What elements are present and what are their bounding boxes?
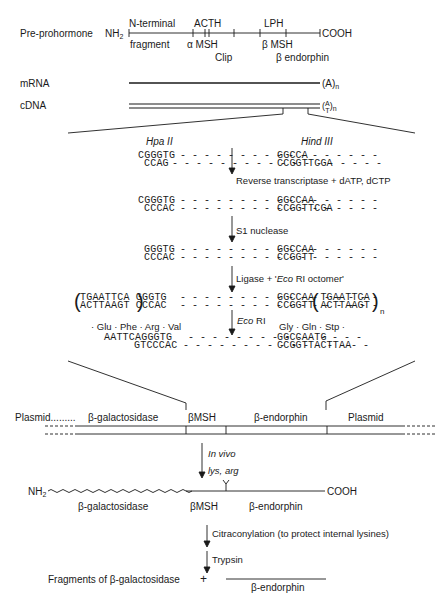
seq-4-bottom-right: CCGGTTACTTAA xyxy=(277,342,351,350)
nterm-text: NH xyxy=(105,28,119,39)
step-0-arrow-label: Reverse transcriptase + dATP, dCTP xyxy=(236,176,391,186)
fusion-label-endorphin: β-endorphin xyxy=(249,502,303,512)
label-clip: Clip xyxy=(215,53,232,63)
octomer-text: RI octomer' xyxy=(293,273,344,284)
cdna-tail-sub: n xyxy=(333,105,337,112)
seq-3-bottom-left: ACTTAAGT CCCAC xyxy=(80,302,167,310)
fusion-nterm-text: NH xyxy=(28,486,42,497)
products-right: β-endorphin xyxy=(251,583,305,593)
products-left: Fragments of β-galactosidase xyxy=(48,575,180,585)
fusion-cterm: COOH xyxy=(327,487,357,497)
seq-0-bottom-right: CCGGTTCGA xyxy=(277,160,333,168)
plasmid-seg-galactosidase: β-galactosidase xyxy=(88,413,158,423)
aa-left: · Glu · Phe · Arg · Val xyxy=(91,322,181,332)
site-hpa-ii: Hpa II xyxy=(146,137,173,147)
label-beta-msh: β MSH xyxy=(262,40,293,50)
nterm-sub: 2 xyxy=(119,33,123,40)
eco-italic: Eco xyxy=(237,315,253,326)
plasmid-seg-bmsh: βMSH xyxy=(188,413,216,423)
seq-1-bottom-right: CCGGTTCGA xyxy=(277,205,333,213)
seq-0-bottom-left: CCAG xyxy=(144,160,169,168)
label-alpha-msh: α MSH xyxy=(187,40,218,50)
prohormone-cterm: COOH xyxy=(322,29,352,39)
prohormone-label: Pre-prohormone xyxy=(20,29,93,39)
plasmid-left-label: Plasmid......... xyxy=(15,413,76,423)
mrna-tail: (A)n xyxy=(322,79,339,89)
mrna-tail-sub: n xyxy=(335,83,339,90)
trypsin-label: Trypsin xyxy=(212,555,243,565)
fusion-label-galactosidase: β-galactosidase xyxy=(78,502,148,512)
step-3-arrow-label: Eco RI xyxy=(237,316,266,326)
prohormone-nterm: NH2 xyxy=(105,29,123,39)
cdna-tail-text: (AT) xyxy=(322,101,333,111)
site-hind-iii: Hind III xyxy=(301,137,333,147)
mrna-label: mRNA xyxy=(20,79,49,89)
seq-4-bottom-left: GTCCCAC xyxy=(134,342,177,350)
cdna-tail: (AT)n xyxy=(322,100,337,114)
seq-2-bottom-right: CCGGTT xyxy=(277,254,314,262)
aa-right: Gly · Gln · Stp · xyxy=(279,322,345,332)
ligase-text: Ligase + ' xyxy=(236,273,277,284)
label-acth: ACTH xyxy=(194,19,221,29)
cdna-label: cDNA xyxy=(20,101,46,111)
products-plus: + xyxy=(200,574,207,584)
plasmid-seg-plasmid: Plasmid xyxy=(348,413,384,423)
seq-3-bottom-right: CCGGTT ACTTAAGT xyxy=(277,302,370,310)
step-2-arrow-label: Ligase + 'Eco RI octomer' xyxy=(236,274,344,284)
eco-text: Eco xyxy=(277,273,293,284)
citraconylation-label: Citraconylation (to protect internal lys… xyxy=(212,529,389,539)
paren-open-right: ( xyxy=(312,291,319,311)
label-lph: LPH xyxy=(264,19,283,29)
label-n-terminal: N-terminal xyxy=(129,19,175,29)
seq-1-bottom-left: CCCAC xyxy=(144,205,175,213)
fusion-nterm: NH2 xyxy=(28,487,46,497)
step-1-arrow-label: S1 nuclease xyxy=(236,226,288,236)
in-vivo-label: In vivo xyxy=(208,449,235,459)
linker-repeat-sub: n xyxy=(380,307,384,317)
lys-arg-label: lys, arg xyxy=(208,466,239,476)
fusion-nterm-sub: 2 xyxy=(42,491,46,498)
fusion-label-bmsh: βMSH xyxy=(190,502,218,512)
mrna-tail-text: (A) xyxy=(322,78,335,89)
seq-2-bottom-left: CCCAC xyxy=(144,254,175,262)
paren-close-right: ) xyxy=(372,291,379,311)
ri-text: RI xyxy=(253,315,265,326)
paren-close-left: ) xyxy=(137,291,144,311)
plasmid-seg-endorphin: β-endorphin xyxy=(254,413,308,423)
label-beta-endorphin: β endorphin xyxy=(276,53,329,63)
label-fragment: fragment xyxy=(130,40,169,50)
